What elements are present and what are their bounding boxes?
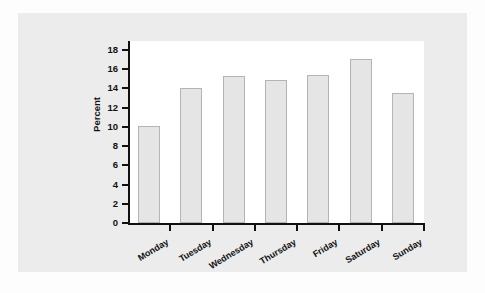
y-axis-tick-label-text: 16 bbox=[90, 64, 118, 74]
y-axis-tick-label-text: 0 bbox=[90, 218, 118, 228]
x-axis-tick-label: Tuesday bbox=[178, 238, 213, 264]
x-axis-tick bbox=[338, 225, 340, 231]
y-axis-tick-label: 6 bbox=[90, 160, 118, 170]
bar bbox=[180, 88, 202, 223]
y-axis-tick bbox=[122, 107, 128, 109]
x-axis-tick-label: Monday bbox=[137, 238, 171, 263]
y-axis-tick-label: 16 bbox=[90, 64, 118, 74]
y-axis-tick-label-text: 18 bbox=[90, 45, 118, 55]
y-axis-tick bbox=[122, 164, 128, 166]
x-axis-tick-label: Wednesday bbox=[208, 238, 255, 271]
bar bbox=[265, 80, 287, 223]
y-axis-tick bbox=[122, 222, 128, 224]
y-axis-tick-label: 4 bbox=[90, 180, 118, 190]
x-axis-tick bbox=[296, 225, 298, 231]
x-axis-tick bbox=[169, 225, 171, 231]
figure-panel: 024681012141618 Percent MondayTuesdayWed… bbox=[18, 13, 467, 272]
bar bbox=[307, 75, 329, 223]
bar bbox=[350, 59, 372, 223]
y-axis-tick bbox=[122, 184, 128, 186]
y-axis-tick-label: 0 bbox=[90, 218, 118, 228]
x-axis-tick bbox=[381, 225, 383, 231]
x-axis-tick bbox=[423, 225, 425, 231]
y-axis-tick bbox=[122, 145, 128, 147]
bar bbox=[223, 76, 245, 223]
y-axis-tick-label: 18 bbox=[90, 45, 118, 55]
x-axis-tick bbox=[212, 225, 214, 231]
bar bbox=[392, 93, 414, 223]
y-axis-tick bbox=[122, 203, 128, 205]
y-axis-tick-label-text: 4 bbox=[90, 180, 118, 190]
y-axis-tick-label-text: 2 bbox=[90, 199, 118, 209]
y-axis-tick-label-text: 6 bbox=[90, 160, 118, 170]
x-axis-tick-labels: MondayTuesdayWednesdayThursdayFridaySatu… bbox=[128, 13, 424, 73]
chart-screenshot: 024681012141618 Percent MondayTuesdayWed… bbox=[0, 0, 485, 293]
bar bbox=[138, 126, 160, 223]
x-axis-tick-label: Thursday bbox=[258, 238, 297, 267]
y-axis-tick bbox=[122, 126, 128, 128]
y-axis-tick-label: 2 bbox=[90, 199, 118, 209]
y-axis-tick bbox=[122, 87, 128, 89]
x-axis-tick-label: Friday bbox=[312, 238, 340, 260]
x-axis-tick bbox=[254, 225, 256, 231]
y-axis-title: Percent bbox=[91, 85, 102, 145]
x-axis-tick-label: Sunday bbox=[392, 238, 425, 262]
x-axis-tick-label: Saturday bbox=[344, 238, 382, 266]
